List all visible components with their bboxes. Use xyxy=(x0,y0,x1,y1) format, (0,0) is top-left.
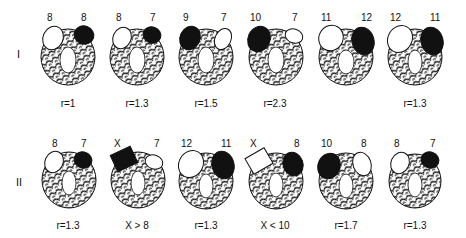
donut-diagram xyxy=(33,12,103,92)
donut-diagram xyxy=(380,138,450,218)
caption: r=2.3 xyxy=(240,98,310,109)
donut-cell: 11 12 xyxy=(311,12,381,122)
donut-diagram xyxy=(240,138,310,218)
caption: r=1.5 xyxy=(171,98,241,109)
donut-diagram xyxy=(171,12,241,92)
donut-cell: 8 7 r=1.3 xyxy=(102,12,172,122)
row-label-i: I xyxy=(17,48,20,60)
donut-cell: 12 11 r=1.3 xyxy=(171,138,241,238)
donut-diagram xyxy=(240,12,310,92)
donut-diagram xyxy=(33,138,103,218)
caption: r=1 xyxy=(33,98,103,109)
donut-cell: 8 8 r=1 xyxy=(33,12,103,122)
row-label-ii: II xyxy=(16,176,22,188)
caption: r=1.3 xyxy=(33,220,103,231)
caption: r=1.3 xyxy=(380,98,450,109)
donut-diagram xyxy=(380,12,450,92)
caption: X > 8 xyxy=(102,220,172,231)
caption: r=1.7 xyxy=(311,220,381,231)
donut-diagram xyxy=(311,138,381,218)
donut-cell: 9 7 r=1.5 xyxy=(171,12,241,122)
donut-cell: 8 7 r=1.3 xyxy=(33,138,103,238)
donut-cell: 8 7 r=1.3 xyxy=(380,138,450,238)
donut-cell: 10 7 r=2.3 xyxy=(240,12,310,122)
donut-cell: X 7 X > 8 xyxy=(102,138,172,238)
donut-diagram xyxy=(102,12,172,92)
donut-cell: 10 8 r=1.7 xyxy=(311,138,381,238)
donut-diagram xyxy=(171,138,241,218)
donut-diagram xyxy=(102,138,172,218)
caption: X < 10 xyxy=(240,220,310,231)
donut-diagram xyxy=(311,12,381,92)
caption: r=1.3 xyxy=(380,220,450,231)
donut-cell: X 8 X < 10 xyxy=(240,138,310,238)
caption: r=1.3 xyxy=(171,220,241,231)
donut-cell: 12 11 r=1.3 xyxy=(380,12,450,122)
caption: r=1.3 xyxy=(102,98,172,109)
